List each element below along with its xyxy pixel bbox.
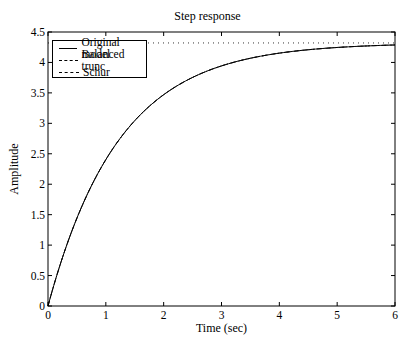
y-tick-label: 1	[39, 239, 45, 251]
legend-label: Schur	[83, 66, 110, 78]
y-tick-label: 2	[39, 178, 45, 190]
legend-item-balanced: Balanced trunc	[53, 54, 146, 66]
x-tick-label: 0	[45, 309, 51, 321]
series-line-schur	[48, 45, 395, 306]
y-tick-label: 1.5	[31, 209, 46, 221]
x-tick-label: 5	[334, 309, 340, 321]
series-line-original-model	[48, 45, 395, 306]
solid-line-icon	[59, 48, 77, 49]
x-tick-label: 1	[103, 309, 109, 321]
y-tick-label: 0.5	[31, 270, 46, 282]
series-line-balanced-trunc	[48, 45, 395, 306]
y-tick-label: 0	[39, 300, 45, 312]
y-tick-label: 4	[39, 56, 45, 68]
y-tick-label: 3.5	[31, 87, 46, 99]
y-tick-label: 3	[39, 117, 45, 129]
dashdot-line-icon	[59, 60, 78, 61]
dashed-line-icon	[59, 72, 79, 73]
x-tick-label: 6	[392, 309, 398, 321]
legend: Original model Balanced trunc Schur	[52, 40, 147, 78]
x-tick-label: 3	[219, 309, 225, 321]
y-tick-label: 2.5	[31, 148, 46, 160]
x-tick-label: 2	[161, 309, 167, 321]
x-tick-label: 4	[276, 309, 282, 321]
y-tick-label: 4.5	[31, 26, 46, 38]
